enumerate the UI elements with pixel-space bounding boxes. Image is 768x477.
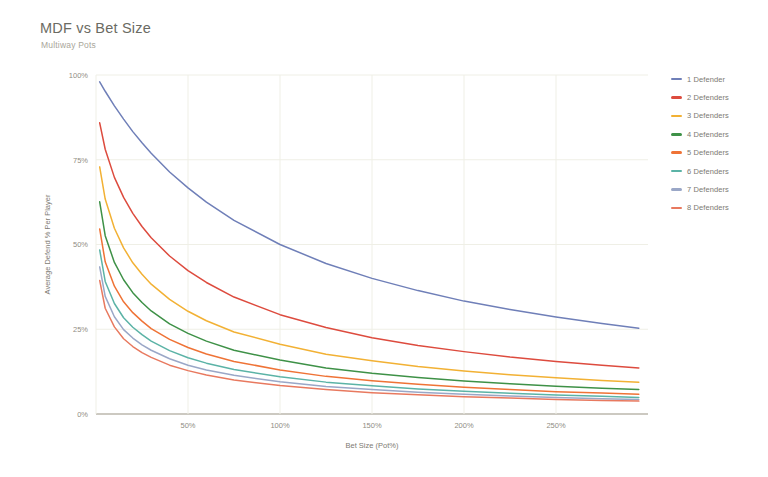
y-axis-title: Average Defend % Per Player — [43, 194, 52, 294]
legend-item-label: 6 Defenders — [687, 167, 729, 176]
legend-item-label: 4 Defenders — [687, 130, 729, 139]
x-tick-label: 100% — [270, 421, 290, 430]
series-line-1 — [100, 82, 639, 328]
y-tick-label: 75% — [73, 156, 88, 165]
legend-item[interactable]: 3 Defenders — [671, 107, 763, 125]
series-line-3 — [100, 167, 639, 382]
x-tick-label: 150% — [362, 421, 382, 430]
x-tick-label: 200% — [454, 421, 474, 430]
legend-swatch-icon — [671, 188, 682, 191]
legend-item-label: 7 Defenders — [687, 185, 729, 194]
x-tick-label: 50% — [180, 421, 195, 430]
chart-card: MDF vs Bet Size Multiway Pots 0%25%50%75… — [0, 0, 768, 477]
legend-swatch-icon — [671, 170, 682, 173]
legend-swatch-icon — [671, 207, 682, 210]
legend-item[interactable]: 7 Defenders — [671, 180, 763, 198]
legend-item-label: 3 Defenders — [687, 111, 729, 120]
legend-item-label: 5 Defenders — [687, 148, 729, 157]
legend-swatch-icon — [671, 151, 682, 154]
x-axis-title: Bet Size (Pot%) — [346, 441, 399, 450]
legend-swatch-icon — [671, 78, 682, 81]
y-tick-label: 50% — [73, 240, 88, 249]
legend-item[interactable]: 4 Defenders — [671, 125, 763, 143]
x-tick-label: 250% — [546, 421, 566, 430]
series-line-8 — [100, 280, 639, 401]
chart-legend: 1 Defender2 Defenders3 Defenders4 Defend… — [671, 70, 763, 217]
legend-item[interactable]: 1 Defender — [671, 70, 763, 88]
legend-item-label: 2 Defenders — [687, 93, 729, 102]
y-tick-label: 0% — [77, 410, 88, 419]
line-chart-svg: 0%25%50%75%100%50%100%150%200%250%Bet Si… — [0, 0, 768, 477]
legend-swatch-icon — [671, 133, 682, 136]
plot-area: 0%25%50%75%100%50%100%150%200%250%Bet Si… — [0, 0, 768, 477]
legend-swatch-icon — [671, 96, 682, 99]
legend-swatch-icon — [671, 115, 682, 118]
series-line-5 — [100, 229, 639, 394]
legend-item[interactable]: 8 Defenders — [671, 199, 763, 217]
y-tick-label: 25% — [73, 325, 88, 334]
legend-item-label: 8 Defenders — [687, 203, 729, 212]
y-tick-label: 100% — [69, 71, 89, 80]
legend-item[interactable]: 5 Defenders — [671, 144, 763, 162]
series-line-7 — [100, 267, 639, 400]
legend-item[interactable]: 6 Defenders — [671, 162, 763, 180]
legend-item[interactable]: 2 Defenders — [671, 88, 763, 106]
series-line-6 — [100, 250, 639, 397]
legend-item-label: 1 Defender — [687, 75, 725, 84]
